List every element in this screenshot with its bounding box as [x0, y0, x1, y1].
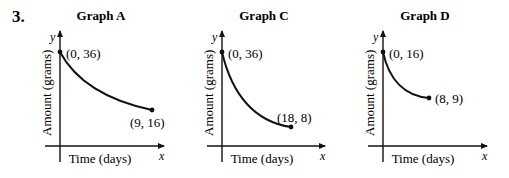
- x-axis-letter: x: [481, 149, 488, 163]
- end-label: (8, 9): [435, 91, 463, 106]
- problem-number: 3.: [12, 7, 25, 26]
- end-label: (18, 8): [277, 110, 312, 125]
- end-point: [427, 96, 432, 101]
- graph-a-title: Graph A: [77, 8, 126, 23]
- y-axis-letter: y: [211, 30, 218, 44]
- start-point: [220, 50, 225, 55]
- graph-d: Graph D y x (0, 16) (8, 9) Time (days) A…: [362, 8, 488, 166]
- graphs-figure: 3. Graph A y x (0, 36) (9, 16) Time (day…: [0, 0, 509, 178]
- x-axis-label: Time (days): [69, 151, 132, 166]
- y-axis-label: Amount (grams): [39, 50, 54, 136]
- graph-d-title: Graph D: [400, 8, 449, 23]
- start-label: (0, 16): [389, 46, 424, 61]
- x-axis-letter: x: [319, 149, 326, 163]
- start-label: (0, 36): [66, 46, 101, 61]
- y-axis-label: Amount (grams): [362, 50, 377, 136]
- y-axis-label: Amount (grams): [201, 50, 216, 136]
- start-point: [58, 50, 63, 55]
- start-label: (0, 36): [228, 46, 263, 61]
- graph-a: Graph A y x (0, 36) (9, 16) Time (days) …: [39, 8, 165, 166]
- end-label: (9, 16): [130, 115, 165, 130]
- end-point: [150, 108, 155, 113]
- y-axis-letter: y: [49, 30, 56, 44]
- graph-c: Graph C y x (0, 36) (18, 8) Time (days) …: [201, 8, 326, 166]
- x-axis-letter: x: [158, 149, 165, 163]
- x-axis-label: Time (days): [231, 151, 294, 166]
- graph-c-title: Graph C: [239, 8, 288, 23]
- x-axis-label: Time (days): [392, 151, 455, 166]
- y-axis-letter: y: [372, 30, 379, 44]
- start-point: [381, 50, 386, 55]
- end-point: [289, 125, 294, 130]
